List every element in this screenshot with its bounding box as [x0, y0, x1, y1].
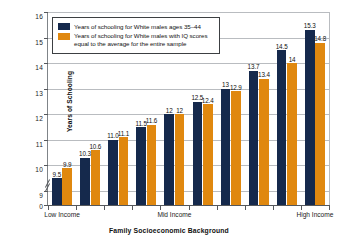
legend-item: Years of schooling for White males with …: [56, 32, 215, 48]
bar-value-secondary: 13.4: [258, 71, 270, 78]
legend-label-secondary-line2: equal to the average for the entire samp…: [74, 40, 186, 47]
bar-group: 14.514: [277, 12, 297, 205]
bar-secondary[interactable]: [175, 114, 185, 205]
x-tick-mark: [273, 206, 274, 210]
bar-value-primary: 10.3: [79, 150, 91, 157]
legend-label-secondary: Years of schooling for White males with …: [74, 32, 208, 48]
x-tick-label: High Income: [296, 211, 333, 218]
x-tick-mark: [104, 206, 105, 210]
bar-secondary[interactable]: [287, 63, 297, 205]
bar-group: 15.314.8: [305, 12, 325, 205]
x-tick-label: Mid Income: [157, 211, 191, 218]
bar-primary[interactable]: [277, 50, 287, 205]
bar-value-secondary: 9.9: [63, 161, 71, 168]
bar-group: 13.713.4: [249, 12, 269, 205]
legend-swatch-primary: [58, 23, 70, 30]
x-tick-mark: [189, 206, 190, 210]
x-tick-mark: [329, 206, 330, 210]
bar-value-primary: 12: [166, 107, 173, 114]
axis-break-icon: [42, 180, 53, 192]
bar-secondary[interactable]: [231, 91, 241, 205]
bar-secondary[interactable]: [315, 43, 325, 205]
bar-value-primary: 9.5: [53, 171, 61, 178]
y-axis-title: Years of Schooling: [66, 42, 73, 162]
x-axis-title: Family Socioeconomic Background: [0, 227, 338, 234]
bar-secondary[interactable]: [119, 137, 129, 205]
legend-label-primary: Years of schooling for White males ages …: [74, 23, 201, 31]
plot-right-border: [329, 12, 330, 206]
bar-primary[interactable]: [193, 102, 203, 206]
legend-swatch-secondary: [58, 33, 70, 40]
bar-primary[interactable]: [108, 140, 118, 205]
bar-value-primary: 13: [222, 81, 229, 88]
chart-screenshot: 1615141312111090 9.59.910.310.611.011.11…: [0, 0, 338, 251]
bar-secondary[interactable]: [147, 125, 157, 205]
x-tick-mark: [48, 206, 49, 210]
x-tick-mark: [245, 206, 246, 210]
bar-value-secondary: 12: [176, 107, 183, 114]
bar-group: 1312.9: [221, 12, 241, 205]
bar-secondary[interactable]: [259, 79, 269, 206]
y-tick-label-zero: 0: [3, 203, 43, 210]
x-tick-label: Low Income: [44, 211, 80, 218]
bar-secondary[interactable]: [91, 150, 101, 205]
legend-item: Years of schooling for White males ages …: [56, 23, 215, 31]
bar-value-secondary: 14: [289, 56, 296, 63]
bar-value-primary: 13.7: [248, 63, 260, 70]
x-tick-mark: [132, 206, 133, 210]
bar-value-primary: 14.5: [276, 43, 288, 50]
bar-primary[interactable]: [249, 71, 259, 205]
bar-secondary[interactable]: [203, 104, 213, 205]
bar-value-primary: 15.3: [304, 22, 316, 29]
bar-value-secondary: 14.8: [314, 35, 326, 42]
bar-value-secondary: 11.6: [146, 117, 157, 124]
bar-value-secondary: 10.6: [89, 143, 101, 150]
bar-primary[interactable]: [221, 89, 231, 205]
bar-value-secondary: 12.4: [202, 97, 214, 104]
bar-primary[interactable]: [52, 178, 62, 205]
x-tick-mark: [217, 206, 218, 210]
bar-secondary[interactable]: [62, 168, 72, 205]
bar-primary[interactable]: [80, 158, 90, 205]
bar-primary[interactable]: [305, 30, 315, 205]
legend-label-secondary-line1: Years of schooling for White males with …: [74, 32, 208, 39]
x-tick-mark: [301, 206, 302, 210]
bar-primary[interactable]: [136, 127, 146, 205]
bar-primary[interactable]: [164, 114, 174, 205]
chart-legend: Years of schooling for White males ages …: [52, 17, 220, 54]
x-tick-mark: [160, 206, 161, 210]
bar-value-secondary: 11.1: [118, 130, 129, 137]
bar-value-secondary: 12.9: [230, 84, 242, 91]
x-tick-mark: [76, 206, 77, 210]
